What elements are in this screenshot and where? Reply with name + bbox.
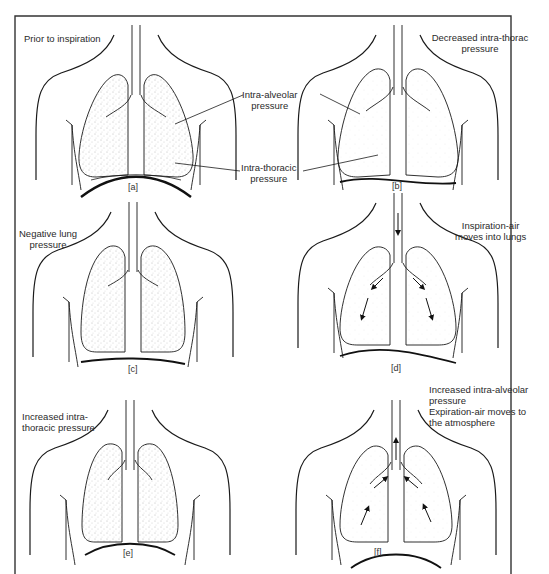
caption-line: thoracic pressure xyxy=(22,422,95,433)
panel-e-caption: Increased intra- thoracic pressure xyxy=(22,411,95,433)
panel-c-tag: [c] xyxy=(128,364,138,374)
caption-line: pressure xyxy=(429,395,528,406)
panel-d-caption: Inspiration-air moves into lungs xyxy=(455,220,526,242)
figure-drawing xyxy=(0,0,549,574)
panel-a-tag: [a] xyxy=(128,182,138,192)
panel-b-tag: [b] xyxy=(392,181,402,191)
panel-c-drawing xyxy=(33,202,233,367)
panel-f-tag: [f] xyxy=(374,547,382,557)
panel-d-drawing xyxy=(298,193,498,363)
callout-line: pressure xyxy=(241,173,296,184)
panel-f-caption: Increased intra-alveolar pressure Expira… xyxy=(429,384,528,428)
panel-a-caption: Prior to inspiration xyxy=(24,33,101,44)
caption-line: pressure xyxy=(19,239,77,250)
panel-e-tag: [e] xyxy=(123,548,133,558)
caption-line: pressure xyxy=(420,43,540,54)
panel-d-tag: [d] xyxy=(391,363,401,373)
callout-line: pressure xyxy=(242,100,297,111)
caption-line: Increased intra-alveolar xyxy=(429,384,528,395)
caption-line: Inspiration-air xyxy=(455,220,526,231)
intra-alveolar-callout: Intra-alveolar pressure xyxy=(242,89,297,111)
caption-line: the atmosphere xyxy=(429,417,528,428)
caption-line: Increased intra- xyxy=(22,411,95,422)
caption-line: Prior to inspiration xyxy=(24,33,101,44)
callout-line: Intra-alveolar xyxy=(242,89,297,100)
caption-line: Expiration-air moves to xyxy=(429,406,528,417)
caption-line: moves into lungs xyxy=(455,231,526,242)
caption-line: Decreased intra-thorac xyxy=(420,32,540,43)
caption-line: Negative lung xyxy=(19,228,77,239)
intra-thoracic-callout: Intra-thoracic pressure xyxy=(241,162,296,184)
callout-line: Intra-thoracic xyxy=(241,162,296,173)
panel-b-caption: Decreased intra-thorac pressure xyxy=(420,32,540,54)
respiration-figure: Prior to inspiration Decreased intra-tho… xyxy=(0,0,549,574)
panel-c-caption: Negative lung pressure xyxy=(19,228,77,250)
